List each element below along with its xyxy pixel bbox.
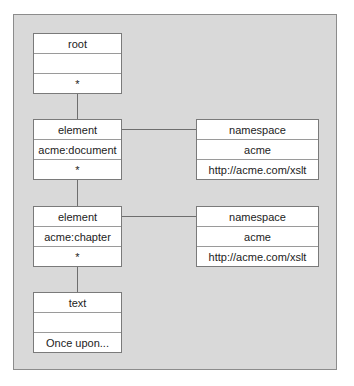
node-element-chapter: element acme:chapter * <box>33 206 122 267</box>
edge-root-element-document <box>77 93 78 119</box>
node-namespace-2: namespace acme http://acme.com/xslt <box>196 206 319 267</box>
node-type-label: element <box>34 207 121 227</box>
node-value-label: http://acme.com/xslt <box>197 160 318 180</box>
node-type-label: namespace <box>197 120 318 140</box>
node-type-label: namespace <box>197 207 318 227</box>
edge-element-chapter-text <box>77 266 78 292</box>
node-name-label: acme <box>197 227 318 247</box>
node-value-label: * <box>34 160 121 180</box>
node-name-label <box>34 313 121 333</box>
edge-element-document-namespace <box>121 129 196 130</box>
node-root: root * <box>33 33 122 94</box>
node-name-label: acme:document <box>34 140 121 160</box>
node-text: text Once upon... <box>33 292 122 353</box>
edge-element-chapter-namespace <box>121 216 196 217</box>
node-value-label: * <box>34 247 121 267</box>
node-name-label: acme <box>197 140 318 160</box>
node-value-label: Once upon... <box>34 333 121 353</box>
node-name-label <box>34 54 121 74</box>
node-type-label: element <box>34 120 121 140</box>
node-name-label: acme:chapter <box>34 227 121 247</box>
node-namespace-1: namespace acme http://acme.com/xslt <box>196 119 319 180</box>
edge-element-document-element-chapter <box>77 179 78 206</box>
node-element-document: element acme:document * <box>33 119 122 180</box>
node-type-label: text <box>34 293 121 313</box>
node-value-label: http://acme.com/xslt <box>197 247 318 267</box>
node-value-label: * <box>34 74 121 94</box>
node-type-label: root <box>34 34 121 54</box>
